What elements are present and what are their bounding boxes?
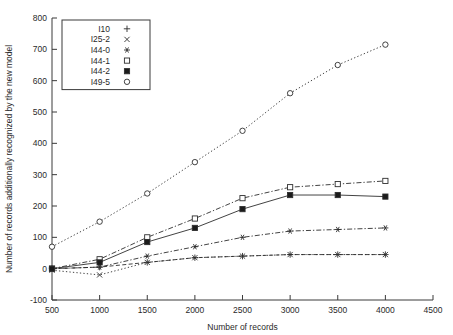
data-point-i44-2 (288, 192, 293, 197)
data-point-i44-1 (288, 185, 293, 190)
legend-marker-i44-2 (124, 69, 129, 74)
data-point-i49-5 (192, 159, 197, 164)
x-tick-label: 500 (45, 305, 59, 315)
y-tick-label: 600 (33, 76, 47, 86)
x-tick-label: 1000 (90, 305, 109, 315)
data-point-i44-0 (382, 225, 388, 230)
legend-marker-i44-1 (124, 58, 129, 63)
legend-label-i10[interactable]: I10 (98, 24, 110, 34)
x-tick-label: 4000 (376, 305, 395, 315)
y-axis-title: Number of records additionally recognize… (4, 45, 14, 273)
y-tick-label: 0 (42, 264, 47, 274)
data-point-i44-0 (240, 235, 246, 240)
x-axis-title: Number of records (207, 322, 277, 332)
data-point-i49-5 (145, 191, 150, 196)
legend-label-i44-0[interactable]: I44-0 (91, 45, 111, 55)
y-tick-label: 300 (33, 170, 47, 180)
data-point-i44-2 (192, 225, 197, 230)
data-point-i44-2 (145, 239, 150, 244)
data-point-i44-1 (335, 181, 340, 186)
legend-label-i44-1[interactable]: I44-1 (91, 56, 111, 66)
y-tick-label: 100 (33, 232, 47, 242)
chart-axis-titles: Number of recordsNumber of records addit… (4, 45, 278, 332)
chart-figure: -100010020030040050060070080050010001500… (0, 0, 453, 335)
data-point-i44-0 (287, 228, 293, 233)
data-point-i44-1 (240, 196, 245, 201)
data-point-i49-5 (287, 91, 292, 96)
legend-marker-i49-5 (124, 79, 129, 84)
y-tick-label: 500 (33, 107, 47, 117)
line-chart: -100010020030040050060070080050010001500… (0, 0, 453, 335)
legend-marker-i25-2 (124, 37, 129, 42)
data-point-i44-0 (192, 244, 198, 249)
y-tick-label: -100 (30, 295, 47, 305)
x-tick-label: 3500 (328, 305, 347, 315)
x-tick-label: 4500 (424, 305, 443, 315)
data-point-i44-1 (383, 178, 388, 183)
legend-label-i44-2[interactable]: I44-2 (91, 66, 111, 76)
data-point-i49-5 (240, 128, 245, 133)
y-tick-label: 400 (33, 138, 47, 148)
series-i44-2 (49, 192, 388, 271)
y-tick-label: 800 (33, 13, 47, 23)
legend-marker-i44-0 (124, 47, 130, 52)
x-tick-label: 2000 (185, 305, 204, 315)
x-tick-label: 3000 (281, 305, 300, 315)
data-point-i49-5 (97, 219, 102, 224)
data-point-i44-0 (144, 254, 150, 259)
data-point-i44-2 (335, 192, 340, 197)
x-tick-label: 1500 (138, 305, 157, 315)
data-point-i44-0 (335, 227, 341, 232)
data-point-i49-5 (383, 42, 388, 47)
data-point-i49-5 (49, 244, 54, 249)
data-point-i44-2 (383, 194, 388, 199)
data-point-i44-2 (97, 260, 102, 265)
chart-legend[interactable]: I10I25-2I44-0I44-1I44-2I49-5 (62, 20, 150, 90)
legend-marker-i10 (124, 26, 130, 32)
data-point-i44-2 (49, 266, 54, 271)
legend-label-i25-2[interactable]: I25-2 (91, 34, 111, 44)
data-point-i44-2 (240, 207, 245, 212)
data-point-i49-5 (335, 62, 340, 67)
data-point-i44-1 (192, 216, 197, 221)
y-tick-label: 700 (33, 44, 47, 54)
x-tick-label: 2500 (233, 305, 252, 315)
legend-label-i49-5[interactable]: I49-5 (91, 77, 111, 87)
y-tick-label: 200 (33, 201, 47, 211)
